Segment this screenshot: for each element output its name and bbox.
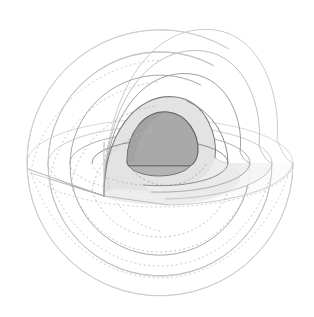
cutaway-nested-spheres-figure [0,0,314,317]
diagram-canvas [0,0,314,317]
wedge-apex-vertex [103,195,105,197]
shell-outer-wall-right [259,146,272,163]
figure-root [27,29,293,295]
